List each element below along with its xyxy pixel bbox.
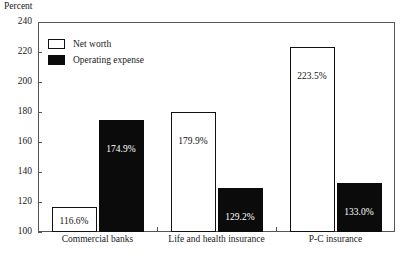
y-axis-tick-label: 220 <box>2 47 32 57</box>
x-axis-category-label: Life and health insurance <box>157 234 276 244</box>
bar-value-label: 133.0% <box>338 208 381 218</box>
y-axis-tick-label: 200 <box>2 77 32 87</box>
y-axis-tick-mark <box>38 52 42 53</box>
bar-value-label: 174.9% <box>100 145 143 155</box>
bar-operating-expense: 129.2% <box>218 188 263 232</box>
y-axis-tick-mark <box>38 142 42 143</box>
y-axis-tick-mark <box>38 232 42 233</box>
bar-net-worth: 116.6% <box>52 207 97 232</box>
y-axis-tick-mark <box>38 202 42 203</box>
y-axis-tick-label: 240 <box>2 17 32 27</box>
x-axis-group-tick <box>157 227 158 232</box>
y-axis-tick-mark <box>38 172 42 173</box>
y-axis-tick-label: 140 <box>2 167 32 177</box>
bar-chart: Percent 240220200180160140120100 116.6%1… <box>0 0 405 255</box>
bar-value-label: 179.9% <box>172 137 215 147</box>
bar-net-worth: 179.9% <box>171 112 216 232</box>
bar-value-label: 223.5% <box>291 72 334 82</box>
x-axis-category-label: Commercial banks <box>38 234 157 244</box>
bar-operating-expense: 133.0% <box>337 183 382 233</box>
y-axis-tick-mark <box>38 82 42 83</box>
x-axis-category-label: P-C insurance <box>276 234 395 244</box>
legend-item-net-worth: Net worth <box>48 38 144 49</box>
bar-value-label: 129.2% <box>219 213 262 223</box>
legend-swatch-operating-expense-icon <box>48 55 65 65</box>
legend-label-net-worth: Net worth <box>73 39 111 49</box>
y-axis-tick-label: 180 <box>2 107 32 117</box>
x-axis-group-tick <box>276 227 277 232</box>
bar-operating-expense: 174.9% <box>99 120 144 232</box>
chart-legend: Net worth Operating expense <box>48 38 144 70</box>
y-axis-tick-mark <box>38 112 42 113</box>
bar-net-worth: 223.5% <box>290 47 335 232</box>
y-axis-title: Percent <box>4 1 33 11</box>
bar-value-label: 116.6% <box>53 217 96 227</box>
legend-swatch-net-worth-icon <box>48 39 65 49</box>
y-axis-tick-label: 160 <box>2 137 32 147</box>
y-axis-tick-label: 100 <box>2 227 32 237</box>
y-axis-tick-label: 120 <box>2 197 32 207</box>
legend-item-operating-expense: Operating expense <box>48 54 144 65</box>
legend-label-operating-expense: Operating expense <box>73 55 144 65</box>
